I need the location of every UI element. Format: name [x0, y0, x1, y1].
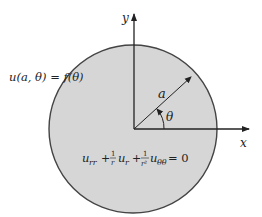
radius-label: a	[158, 86, 166, 101]
pde-plus2: +	[132, 152, 141, 165]
disk-diagram: y x a θ u(a, θ) = f(θ) u rr + 1 r u r + …	[0, 0, 262, 217]
pde-term1-sub: rr	[89, 158, 98, 167]
pde-frac2-den: r²	[141, 160, 147, 168]
pde-frac1-num: 1	[111, 150, 115, 158]
x-axis-label: x	[240, 136, 247, 150]
y-axis-label: y	[121, 11, 129, 25]
pde-term3-sub: θθ	[157, 158, 167, 167]
pde-plus1: +	[101, 152, 110, 165]
pde-frac2-num: 1	[143, 150, 147, 158]
pde-equals-zero: = 0	[168, 151, 189, 165]
boundary-condition-label: u(a, θ) = f(θ)	[9, 70, 84, 84]
angle-label: θ	[166, 110, 174, 124]
